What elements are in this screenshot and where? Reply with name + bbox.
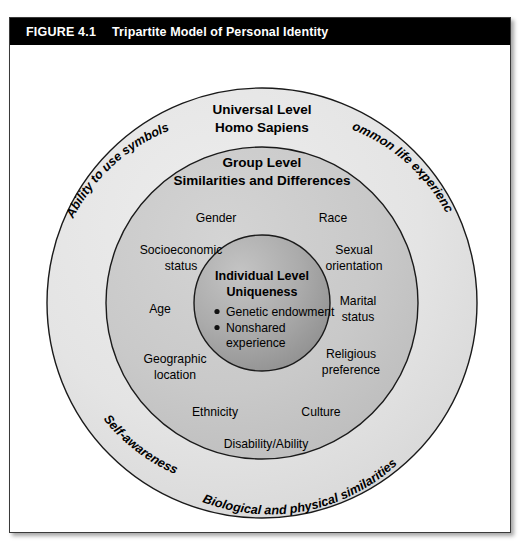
page-title: Tripartite Model of Personal Identity	[112, 25, 328, 39]
attr-race: Race	[319, 211, 348, 225]
attr-ethnicity: Ethnicity	[192, 405, 239, 419]
tripartite-model-diagram: Universal Level Homo Sapiens Group Level…	[10, 45, 510, 532]
inner-bullet-nonshared: Nonshared	[226, 321, 286, 335]
attr-religious-preference-line1: Religious	[326, 347, 376, 361]
inner-circle-title-line2: Uniqueness	[227, 285, 298, 299]
figure-title-bar: FIGURE 4.1 Tripartite Model of Personal …	[10, 18, 510, 45]
middle-ring-title-line1: Group Level	[223, 155, 302, 170]
outer-ring-title-line2: Homo Sapiens	[215, 120, 309, 135]
attr-disability-ability: Disability/Ability	[224, 437, 310, 451]
attr-age: Age	[149, 302, 171, 316]
bullet-marker-genetic-endowment	[214, 309, 219, 314]
figure-number: FIGURE 4.1	[26, 25, 96, 39]
attr-geographic-location-line2: location	[154, 368, 196, 382]
attr-marital-status-line1: Marital	[340, 294, 377, 308]
bullet-marker-nonshared-experience	[214, 325, 219, 330]
inner-bullet-genetic-endowment: Genetic endowment	[226, 305, 335, 319]
attr-geographic-location-line1: Geographic	[143, 352, 206, 366]
attr-culture: Culture	[301, 405, 341, 419]
attr-socioeconomic-status-line2: status	[165, 259, 198, 273]
attr-sexual-orientation-line1: Sexual	[335, 243, 372, 257]
inner-circle-title-line1: Individual Level	[215, 269, 309, 283]
attr-marital-status-line2: status	[342, 310, 375, 324]
inner-bullet-experience: experience	[226, 336, 286, 350]
middle-ring-title-line2: Similarities and Differences	[173, 173, 350, 188]
attr-gender: Gender	[196, 211, 237, 225]
attr-religious-preference-line2: preference	[322, 363, 380, 377]
figure-frame: FIGURE 4.1 Tripartite Model of Personal …	[9, 17, 511, 533]
attr-sexual-orientation-line2: orientation	[326, 259, 383, 273]
outer-ring-title-line1: Universal Level	[212, 102, 311, 117]
attr-socioeconomic-status-line1: Socioeconomic	[140, 243, 223, 257]
